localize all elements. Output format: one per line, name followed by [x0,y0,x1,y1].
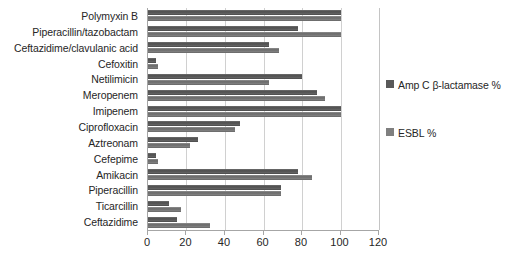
bar-group [148,135,379,151]
bar-ampc [148,106,341,111]
bar-ampc [148,10,341,15]
category-label: Ticarcillin [0,198,143,214]
bar-group [148,56,379,72]
bar-group [148,151,379,167]
category-label: Polymyxin B [0,8,143,24]
bar-esbl [148,191,281,196]
plot-area [147,8,379,231]
bar-esbl [148,80,269,85]
tick-mark [263,231,264,235]
legend-entry[interactable]: Amp C β-lactamase % [386,78,511,92]
tick-label: 20 [179,236,191,248]
bar-groups [148,8,379,230]
bar-group [148,8,379,24]
tick-mark [378,231,379,235]
bar-esbl [148,64,158,69]
category-label: Ciprofloxacin [0,119,143,135]
category-label: Imipenem [0,103,143,119]
bar-ampc [148,153,156,158]
bar-ampc [148,201,169,206]
category-label: Aztreonam [0,135,143,151]
legend-label: ESBL % [398,126,436,140]
value-axis: 020406080100120 [147,231,378,255]
tick-label: 100 [330,236,348,248]
bar-ampc [148,137,198,142]
tick-mark [224,231,225,235]
category-label: Cefoxitin [0,56,143,72]
category-axis: Polymyxin BPiperacillin/tazobactamCeftaz… [0,8,143,230]
category-label: Piperacillin/tazobactam [0,24,143,40]
bar-ampc [148,26,298,31]
bar-group [148,167,379,183]
category-label: Ceftazidime [0,214,143,230]
tick-label: 120 [369,236,387,248]
category-label: Cefepime [0,151,143,167]
bar-group [148,40,379,56]
bar-ampc [148,74,302,79]
bar-group [148,103,379,119]
bar-ampc [148,217,177,222]
legend-swatch-icon [386,128,394,136]
bar-esbl [148,175,312,180]
bar-group [148,182,379,198]
tick-label: 80 [295,236,307,248]
bar-ampc [148,121,240,126]
bar-ampc [148,185,281,190]
legend-entry[interactable]: ESBL % [386,126,511,140]
bar-group [148,198,379,214]
category-label: Meropenem [0,87,143,103]
bar-esbl [148,96,325,101]
bar-ampc [148,90,317,95]
category-label: Ceftazidime/clavulanic acid [0,40,143,56]
legend-swatch-icon [386,80,394,88]
tick-mark [301,231,302,235]
bar-esbl [148,32,341,37]
bar-group [148,24,379,40]
bar-group [148,71,379,87]
tick-mark [185,231,186,235]
bar-esbl [148,159,158,164]
bar-esbl [148,112,341,117]
bar-esbl [148,16,341,21]
bar-chart: Polymyxin BPiperacillin/tazobactamCeftaz… [0,0,513,262]
bar-esbl [148,207,181,212]
bar-group [148,214,379,230]
category-label: Netilimicin [0,71,143,87]
category-label: Amikacin [0,167,143,183]
bar-esbl [148,223,210,228]
plot-right-border [379,8,380,230]
tick-mark [340,231,341,235]
bar-ampc [148,58,156,63]
bar-group [148,119,379,135]
tick-label: 0 [144,236,150,248]
tick-label: 40 [218,236,230,248]
tick-label: 60 [256,236,268,248]
chart-legend: Amp C β-lactamase %ESBL % [386,78,511,174]
category-label: Piperacillin [0,182,143,198]
legend-label: Amp C β-lactamase % [398,78,501,92]
bar-ampc [148,169,298,174]
bar-esbl [148,143,190,148]
tick-mark [147,231,148,235]
bar-group [148,87,379,103]
bar-esbl [148,48,279,53]
bar-esbl [148,127,235,132]
bar-ampc [148,42,269,47]
